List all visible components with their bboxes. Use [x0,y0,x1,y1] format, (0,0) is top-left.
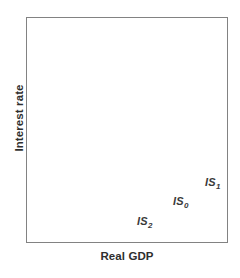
x-axis-title: Real GDP [26,250,228,262]
curve-label-is1-subscript: 1 [216,182,221,191]
curve-label-is0: IS0 [173,195,188,207]
curve-label-is2: IS2 [137,215,152,227]
curve-label-is1: IS1 [205,176,220,188]
is-curve-figure: IS1 IS0 IS2 Interest rate Real GDP [0,0,240,278]
curve-label-is2-subscript: 2 [148,221,153,230]
curve-label-is2-base: IS [137,215,148,227]
curve-label-is0-subscript: 0 [184,201,189,210]
curve-label-is0-base: IS [173,195,184,207]
plot-frame [26,17,228,243]
curve-label-is1-base: IS [205,176,216,188]
y-axis-title: Interest rate [13,48,25,188]
